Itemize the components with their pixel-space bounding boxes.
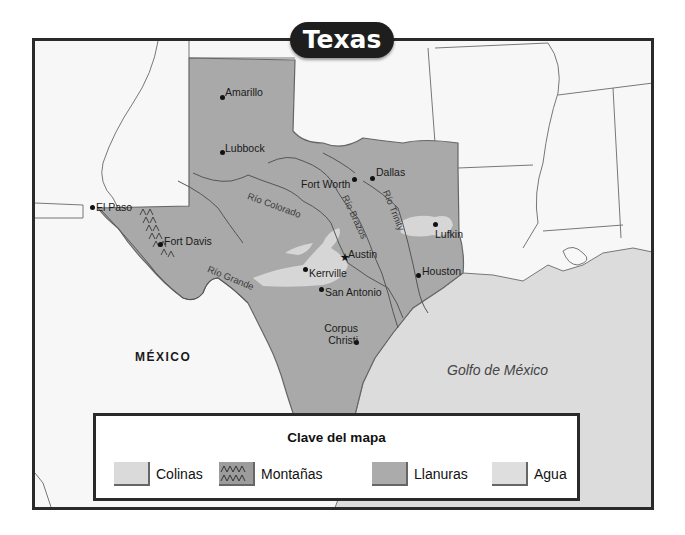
plains-swatch-icon — [372, 462, 408, 486]
city-label-dallas: Dallas — [376, 166, 405, 178]
city-label-corpus-christi: Corpus Christi — [318, 322, 358, 346]
city-dot-dallas — [370, 176, 375, 181]
city-dot-lufkin — [433, 222, 438, 227]
legend-label: Montañas — [261, 466, 322, 482]
city-label-houston: Houston — [422, 265, 461, 277]
mountains-swatch-icon — [219, 462, 255, 486]
city-label-fort-davis: Fort Davis — [164, 235, 212, 247]
city-label-kerrville: Kerrville — [309, 267, 347, 279]
city-dot-houston — [416, 273, 421, 278]
city-label-el-paso: El Paso — [96, 201, 132, 213]
city-label-amarillo: Amarillo — [225, 86, 263, 98]
mexico-coast — [35, 473, 53, 510]
city-label-lubbock: Lubbock — [225, 142, 265, 154]
legend-item-llanuras: Llanuras — [372, 461, 468, 487]
city-dot-el-paso — [90, 205, 95, 210]
city-label-san-antonio: San Antonio — [325, 286, 382, 298]
city-dot-san-antonio — [319, 287, 324, 292]
map-title: Texas — [290, 22, 394, 58]
city-label-austin: Austin — [348, 248, 377, 260]
city-dot-kerrville — [303, 267, 308, 272]
city-label-fort-worth: Fort Worth — [301, 178, 350, 190]
legend-label: Agua — [534, 466, 567, 482]
hills-swatch-icon — [114, 462, 150, 486]
legend-item-colinas: Colinas — [114, 461, 203, 487]
water-swatch-icon — [492, 462, 528, 486]
legend-label: Llanuras — [414, 466, 468, 482]
country-label-mexico: MÉXICO — [135, 350, 191, 364]
legend-items: Colinas Montañas Llanuras Agua — [114, 461, 567, 487]
city-dot-fort-worth — [352, 177, 357, 182]
legend-title: Clave del mapa — [96, 430, 577, 445]
city-label-lufkin: Lufkin — [435, 228, 463, 240]
gulf-label: Golfo de México — [447, 362, 548, 378]
mississippi-delta — [563, 247, 587, 265]
map-legend: Clave del mapa Colinas Montañas Llanuras — [93, 413, 580, 501]
city-dot-fort-davis — [158, 242, 163, 247]
legend-label: Colinas — [156, 466, 203, 482]
legend-item-montanas: Montañas — [219, 461, 322, 487]
legend-item-agua: Agua — [492, 461, 567, 487]
